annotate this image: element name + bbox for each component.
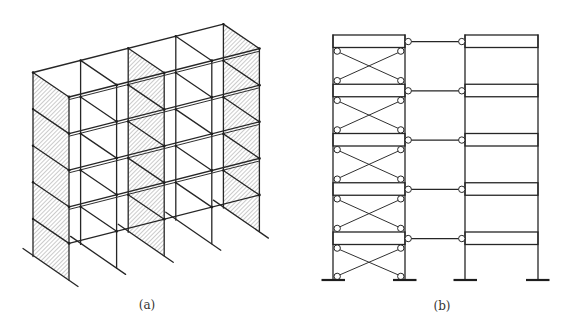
- joint-dot: [163, 181, 166, 184]
- joint-dot: [222, 96, 224, 98]
- pin-hinge: [398, 48, 404, 54]
- pin-hinge: [334, 273, 340, 279]
- floor-slab: [465, 183, 538, 196]
- joint-dot: [127, 84, 129, 86]
- pin-hinge: [398, 245, 404, 251]
- joint-dot: [115, 84, 118, 87]
- floor-slab: [333, 232, 405, 245]
- transverse-beam: [81, 134, 117, 159]
- floor-slab: [465, 84, 538, 97]
- joint-dot: [258, 120, 261, 123]
- joint-dot: [79, 59, 81, 61]
- joint-dot: [258, 47, 261, 50]
- pin-hinge: [398, 225, 404, 231]
- link-hinge: [459, 88, 465, 94]
- pin-hinge: [334, 196, 340, 202]
- transverse-beam: [176, 36, 212, 61]
- joint-dot: [32, 218, 34, 220]
- pin-hinge: [334, 225, 340, 231]
- pin-hinge: [334, 127, 340, 133]
- joint-dot: [175, 108, 177, 110]
- pin-hinge: [334, 176, 340, 182]
- joint-dot: [222, 169, 224, 171]
- link-hinge: [405, 186, 411, 192]
- link-hinge: [405, 235, 411, 241]
- joint-dot: [79, 96, 81, 98]
- floor-slab: [465, 134, 538, 147]
- link-hinge: [405, 88, 411, 94]
- figure-b-elevation-drawing: [322, 35, 550, 280]
- shear-wall: [33, 73, 69, 281]
- transverse-beam: [81, 207, 117, 232]
- joint-dot: [175, 145, 177, 147]
- joint-dot: [115, 157, 118, 160]
- joint-dot: [163, 71, 166, 74]
- joint-dot: [79, 169, 81, 171]
- joint-dot: [32, 145, 34, 147]
- pin-hinge: [334, 146, 340, 152]
- floor-slab: [333, 183, 405, 196]
- figure-b-caption: (b): [433, 299, 450, 313]
- pin-hinge: [398, 146, 404, 152]
- ground-line: [71, 236, 126, 274]
- joint-dot: [115, 120, 118, 123]
- pin-hinge: [398, 273, 404, 279]
- floor-slab: [465, 35, 538, 48]
- joint-dot: [68, 132, 71, 135]
- pin-hinge: [334, 97, 340, 103]
- pin-hinge: [334, 77, 340, 83]
- figure-canvas: (a) (b): [0, 0, 573, 330]
- shear-wall: [223, 24, 259, 232]
- link-hinge: [405, 38, 411, 44]
- joint-dot: [68, 169, 71, 172]
- pin-hinge: [334, 245, 340, 251]
- joint-dot: [79, 132, 81, 134]
- joint-dot: [127, 194, 129, 196]
- link-hinge: [405, 137, 411, 143]
- link-hinge: [459, 38, 465, 44]
- pin-hinge: [334, 48, 340, 54]
- joint-dot: [115, 193, 118, 196]
- joint-dot: [175, 181, 177, 183]
- joint-dot: [68, 205, 71, 208]
- floor-slab: [465, 232, 538, 245]
- pin-hinge: [398, 97, 404, 103]
- joint-dot: [68, 96, 71, 99]
- joint-dot: [175, 35, 177, 37]
- joint-dot: [32, 181, 34, 183]
- transverse-beam: [176, 183, 212, 208]
- figure-a-frame-drawing: [23, 23, 268, 287]
- joint-dot: [175, 72, 177, 74]
- floor-slab: [333, 35, 405, 48]
- joint-dot: [258, 84, 261, 87]
- shear-wall: [128, 48, 164, 256]
- joint-dot: [258, 194, 261, 197]
- transverse-beam: [176, 73, 212, 98]
- transverse-beam: [81, 60, 117, 85]
- transverse-beam: [176, 109, 212, 133]
- joint-dot: [163, 218, 166, 221]
- joint-dot: [258, 157, 261, 160]
- transverse-beam: [81, 97, 117, 122]
- joint-dot: [127, 120, 129, 122]
- ground-line: [166, 212, 221, 250]
- link-hinge: [459, 137, 465, 143]
- joint-dot: [222, 60, 224, 62]
- joint-dot: [210, 96, 213, 99]
- joint-dot: [210, 133, 213, 136]
- joint-dot: [163, 145, 166, 148]
- joint-dot: [210, 169, 213, 172]
- joint-dot: [210, 206, 213, 209]
- joint-dot: [163, 108, 166, 111]
- structural-diagram: [0, 0, 573, 330]
- pin-hinge: [398, 127, 404, 133]
- joint-dot: [79, 206, 81, 208]
- joint-dot: [222, 23, 224, 25]
- joint-dot: [222, 133, 224, 135]
- joint-dot: [127, 47, 129, 49]
- joint-dot: [68, 242, 71, 245]
- floor-slab: [333, 134, 405, 147]
- joint-dot: [127, 157, 129, 159]
- link-hinge: [459, 235, 465, 241]
- link-hinge: [459, 186, 465, 192]
